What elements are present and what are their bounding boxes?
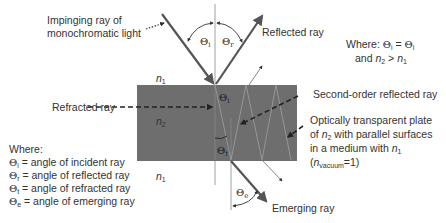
emerging-ray-label: Emerging ray [272, 202, 334, 214]
condition-prefix: Where: [346, 38, 383, 50]
subscript: i [413, 44, 415, 51]
angle-incident-label: Θi [200, 36, 210, 51]
reflected-ray-label: Reflected ray [262, 26, 324, 38]
angle-emerging-label: Θe [236, 187, 248, 202]
greater-than: > [385, 52, 397, 64]
second-order-label: Second-order reflected ray [313, 88, 437, 100]
diagram: Impinging ray of monochromatic light Ref… [0, 0, 446, 223]
legend-item-emerging: Θe = angle of emerging ray [9, 195, 135, 211]
condition-and: and [355, 52, 375, 64]
second-order-exit-ray [249, 66, 262, 85]
impinging-pointer [146, 23, 164, 29]
medium-n1-top: n1 [156, 72, 166, 88]
legend-title: Where: [9, 143, 43, 155]
impinging-ray-label-line2: monochromatic light [47, 27, 141, 39]
medium-n2: n2 [156, 115, 166, 131]
impinging-ray-label-line1: Impinging ray of [47, 14, 122, 26]
equals-sign: = [393, 38, 405, 50]
theta-symbol: Θ [383, 39, 391, 50]
medium-n1-bottom: n1 [156, 170, 166, 186]
angle-refracted-inside-label: Θi [219, 92, 229, 107]
secondary-emerging-ray [262, 160, 282, 181]
refracted-ray-label: Refracted ray [52, 101, 115, 113]
condition-line2: and n2 > n1 [355, 52, 407, 68]
subscript: 1 [403, 58, 407, 65]
angle-reflected-label: Θr [222, 36, 234, 51]
angle-refracted-label: Θt [217, 145, 228, 160]
plate-label-line4: (nvacuum=1) [310, 156, 359, 172]
theta-symbol: Θ [405, 39, 413, 50]
plate-label-line1: Optically transparent plate [310, 114, 432, 126]
